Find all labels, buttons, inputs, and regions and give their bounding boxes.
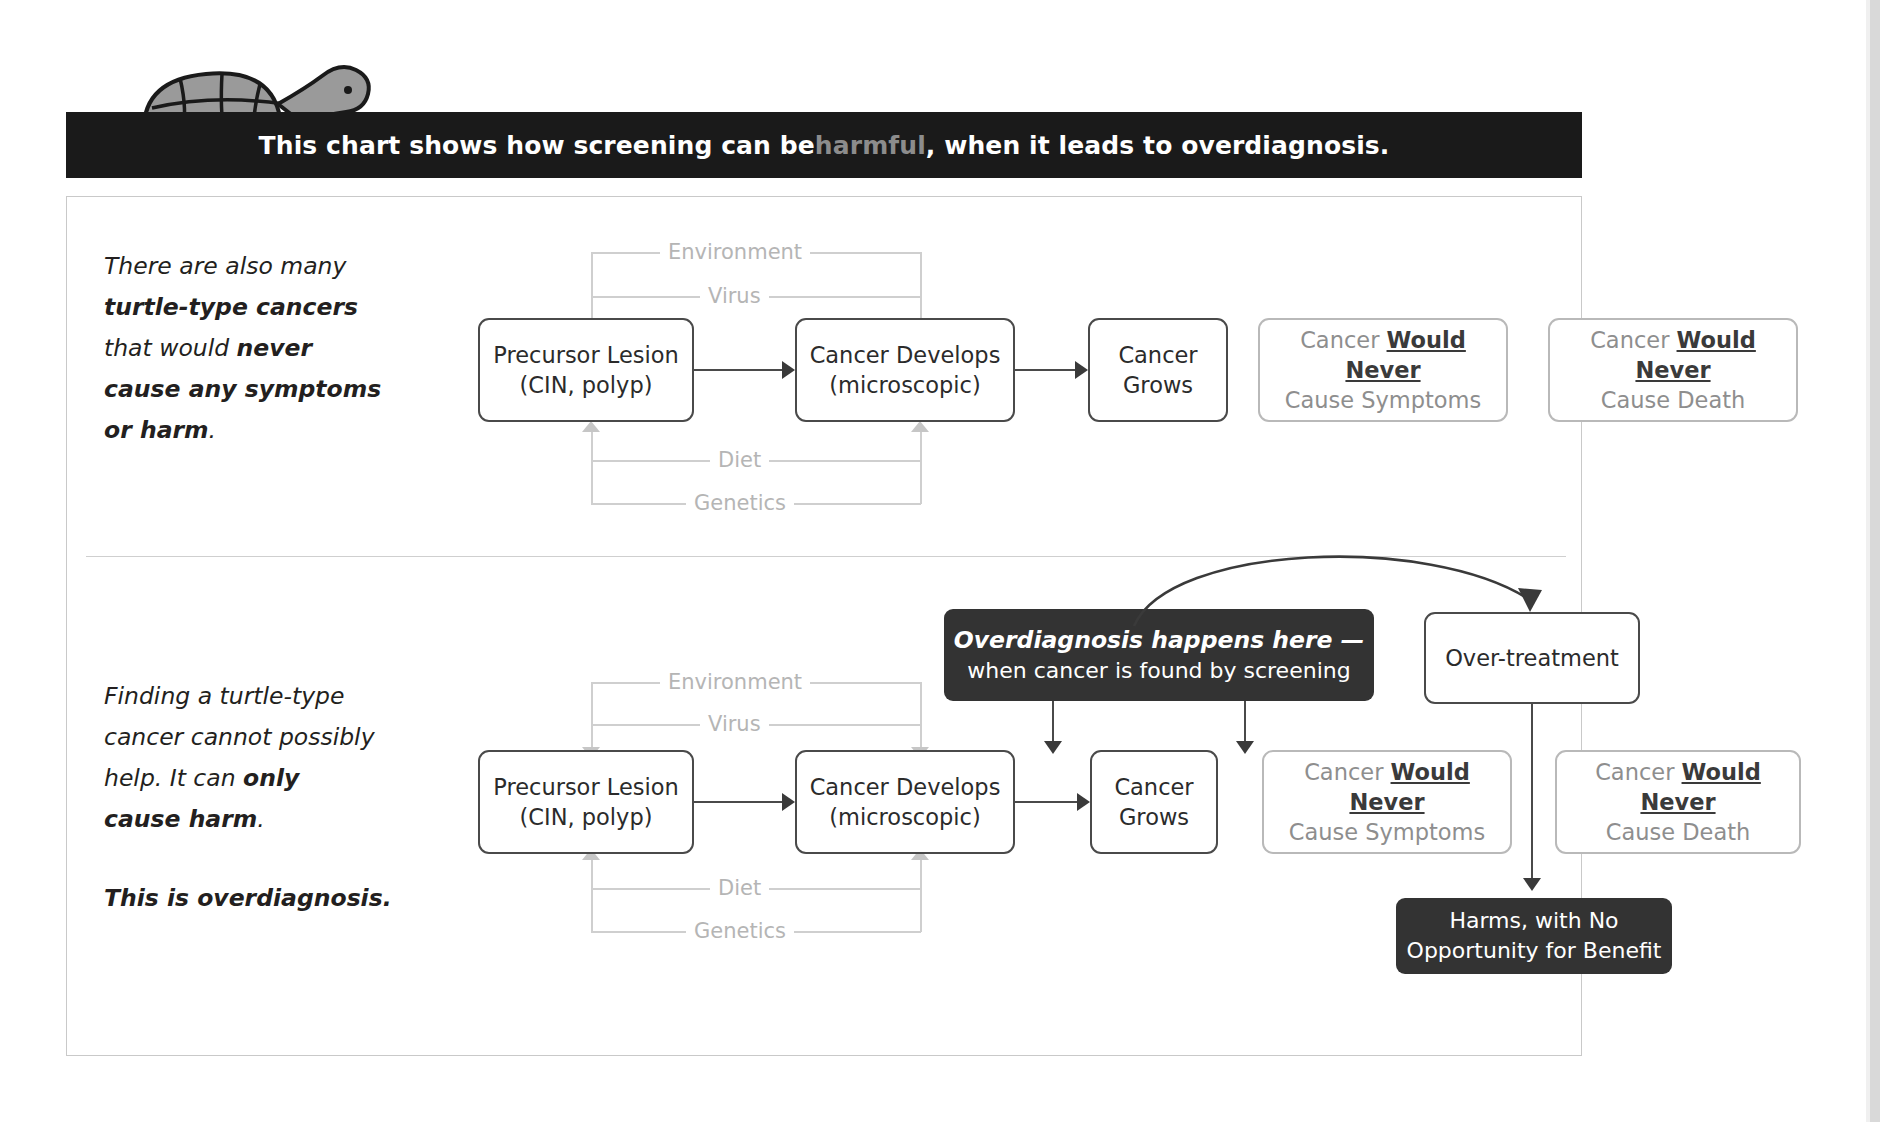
box-no-symptoms-top-l1: Cancer — [1300, 327, 1386, 353]
box-precursor-lesion-bottom[interactable]: Precursor Lesion (CIN, polyp) — [478, 750, 694, 854]
arrowhead-harms — [1523, 878, 1541, 891]
box-precursor-lesion-top[interactable]: Precursor Lesion (CIN, polyp) — [478, 318, 694, 422]
bracket-lower-left-bottom — [591, 860, 593, 932]
factor-label-environment-bottom: Environment — [660, 670, 810, 694]
caption-bottom-l4-period: . — [257, 805, 264, 833]
arrowhead-develops-top — [782, 361, 795, 379]
factor-label-genetics-bottom: Genetics — [686, 919, 794, 943]
box-precursor-lesion-top-l1: Precursor Lesion — [493, 342, 679, 368]
page-title: This chart shows how screening can be ha… — [66, 112, 1582, 178]
bracket-arrow-bottom-left — [582, 421, 600, 432]
box-no-death-top-l2: Cause Death — [1550, 385, 1796, 415]
caption-top-l5: or harm — [104, 416, 209, 444]
connector-over-treatment-to-harms — [1531, 704, 1533, 882]
box-harms-line1: Harms, with No — [1449, 906, 1618, 936]
bracket-lower-left-top — [591, 432, 593, 504]
caption-bottom-l4: cause harm — [104, 805, 257, 833]
callout-arrowhead-to-no-symptoms — [1236, 741, 1254, 754]
arrowhead-grows-bottom — [1077, 793, 1090, 811]
factor-label-environment-top: Environment — [660, 240, 810, 264]
arrowhead-develops-bottom — [782, 793, 795, 811]
box-cancer-develops-top-l1: Cancer Develops — [810, 342, 1001, 368]
box-cancer-grows-top-l1: Cancer — [1118, 342, 1197, 368]
arrowhead-grows-top — [1075, 361, 1088, 379]
box-cancer-develops-top[interactable]: Cancer Develops (microscopic) — [795, 318, 1015, 422]
callout-stem-to-no-symptoms — [1244, 701, 1246, 745]
caption-bottom-l1: Finding a turtle-type — [104, 682, 345, 710]
box-no-death-bottom-l2: Cause Death — [1557, 817, 1799, 847]
box-precursor-lesion-bottom-l2: (CIN, polyp) — [493, 802, 679, 832]
title-part-2: , when it leads to overdiagnosis. — [926, 131, 1390, 160]
box-harms-line2: Opportunity for Benefit — [1407, 936, 1662, 966]
box-no-death-top-l1: Cancer — [1590, 327, 1676, 353]
caption-top-l4: cause any symptoms — [104, 375, 381, 403]
poster-page: This chart shows how screening can be ha… — [0, 0, 1880, 1122]
box-precursor-lesion-top-l2: (CIN, polyp) — [493, 370, 679, 400]
bracket-lower-right — [920, 432, 922, 504]
box-no-death-top[interactable]: Cancer Would Never Cause Death — [1548, 318, 1798, 422]
bracket-arrow-bottom-right — [911, 421, 929, 432]
box-no-death-bottom[interactable]: Cancer Would Never Cause Death — [1555, 750, 1801, 854]
box-cancer-grows-top[interactable]: Cancer Grows — [1088, 318, 1228, 422]
box-no-symptoms-bottom-l2: Cause Symptoms — [1264, 817, 1510, 847]
callout-overdiagnosis-line2: when cancer is found by screening — [967, 656, 1350, 686]
factor-label-genetics-top: Genetics — [686, 491, 794, 515]
bracket-upper-left-top — [591, 252, 593, 324]
caption-top-l5-period: . — [209, 416, 216, 444]
box-no-symptoms-bottom[interactable]: Cancer Would Never Cause Symptoms — [1262, 750, 1512, 854]
factor-label-virus-bottom: Virus — [700, 712, 769, 736]
bracket-lower-right-bottom — [920, 860, 922, 932]
caption-top-l3-em: never — [237, 334, 313, 362]
bracket-upper-right — [920, 252, 922, 324]
box-cancer-grows-bottom-l1: Cancer — [1114, 774, 1193, 800]
title-part-1: This chart shows how screening can be — [259, 131, 815, 160]
factor-label-virus-top: Virus — [700, 284, 769, 308]
callout-stem-to-grows — [1052, 701, 1054, 745]
box-cancer-develops-bottom-l2: (microscopic) — [810, 802, 1001, 832]
box-precursor-lesion-bottom-l1: Precursor Lesion — [493, 774, 679, 800]
bracket-upper-right-bottom — [920, 682, 922, 754]
factor-label-diet-bottom: Diet — [710, 876, 769, 900]
box-no-symptoms-bottom-l1: Cancer — [1304, 759, 1390, 785]
arc-callout-to-over-treatment — [1130, 540, 1550, 630]
box-no-symptoms-top-l2: Cause Symptoms — [1260, 385, 1506, 415]
caption-top-l2: turtle-type cancers — [104, 293, 358, 321]
box-cancer-develops-top-l2: (microscopic) — [810, 370, 1001, 400]
caption-top-l1: There are also many — [104, 252, 346, 280]
caption-bottom-l2: cancer cannot possibly — [104, 723, 375, 751]
box-cancer-grows-bottom[interactable]: Cancer Grows — [1090, 750, 1218, 854]
connector-precursor-to-develops-bottom — [694, 801, 782, 803]
box-cancer-develops-bottom-l1: Cancer Develops — [810, 774, 1001, 800]
title-highlight-harmful: harmful — [815, 131, 926, 160]
box-cancer-grows-top-l2: Grows — [1118, 370, 1197, 400]
box-over-treatment-label: Over-treatment — [1445, 643, 1619, 673]
connector-develops-to-grows-top — [1015, 369, 1075, 371]
box-no-symptoms-top[interactable]: Cancer Would Never Cause Symptoms — [1258, 318, 1508, 422]
connector-precursor-to-develops-top — [694, 369, 782, 371]
caption-bottom: Finding a turtle-type cancer cannot poss… — [104, 676, 434, 840]
box-no-death-bottom-l1: Cancer — [1595, 759, 1681, 785]
caption-bottom-closer: This is overdiagnosis. — [104, 878, 434, 919]
box-cancer-develops-bottom[interactable]: Cancer Develops (microscopic) — [795, 750, 1015, 854]
caption-bottom-l3: help. It can — [104, 764, 243, 792]
callout-arrowhead-to-grows — [1044, 741, 1062, 754]
caption-top-l3: that would — [104, 334, 237, 362]
factor-label-diet-top: Diet — [710, 448, 769, 472]
box-cancer-grows-bottom-l2: Grows — [1114, 802, 1193, 832]
box-harms-no-benefit[interactable]: Harms, with No Opportunity for Benefit — [1396, 898, 1672, 974]
page-edge-outer — [1870, 0, 1880, 1122]
caption-top: There are also many turtle-type cancers … — [104, 246, 434, 451]
bracket-upper-left-bottom — [591, 682, 593, 754]
connector-develops-to-grows-bottom — [1015, 801, 1077, 803]
caption-bottom-l3-em: only — [243, 764, 299, 792]
